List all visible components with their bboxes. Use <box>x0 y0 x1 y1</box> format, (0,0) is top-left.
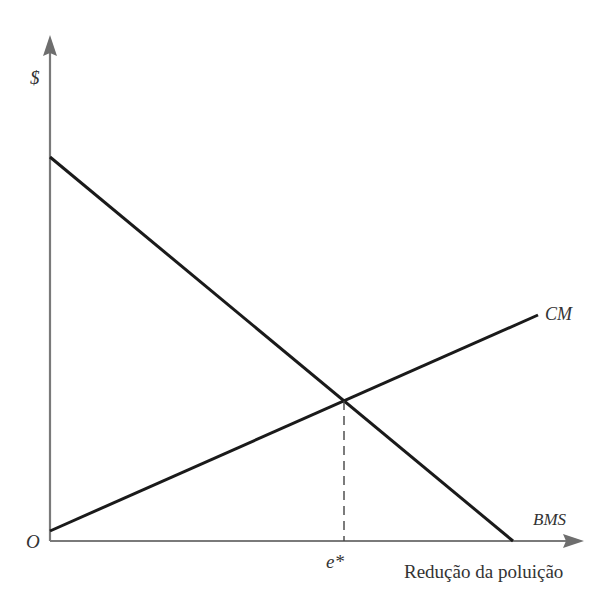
equilibrium-label: e* <box>326 552 344 571</box>
origin-label: O <box>26 532 40 551</box>
y-axis-arrow-icon <box>43 35 57 56</box>
x-axis-arrow-icon <box>563 534 584 548</box>
bms-curve <box>50 157 513 541</box>
y-axis <box>43 35 57 541</box>
cm-curve <box>50 315 538 531</box>
economics-diagram <box>0 0 615 594</box>
x-axis <box>50 534 584 548</box>
x-axis-label: Redução da poluição <box>404 562 563 581</box>
cm-curve-label: CM <box>545 305 572 323</box>
y-axis-label: $ <box>30 68 40 87</box>
bms-curve-label: BMS <box>533 511 566 528</box>
